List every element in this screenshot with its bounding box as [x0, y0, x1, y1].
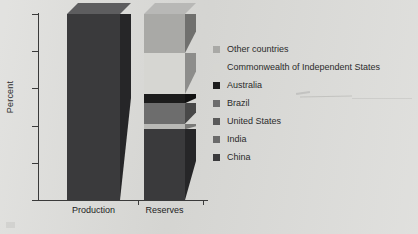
y-axis-tick [32, 14, 38, 15]
bar-side-segment [185, 53, 196, 94]
legend-label: Commonwealth of Independent States [227, 62, 380, 72]
bar-segment-commonwealth-of-independent-states [144, 53, 185, 94]
legend-item: Commonwealth of Independent States [213, 58, 380, 76]
bar-segment-china [144, 129, 185, 200]
plot-area: Percent 020406080100 ProductionReserves [0, 0, 215, 234]
bar-side-segment [185, 129, 196, 200]
bar-side-segment [120, 14, 131, 200]
legend-label: United States [227, 116, 281, 126]
bar-segment-united-states [144, 124, 185, 130]
bar-segment-australia [144, 94, 185, 103]
legend-label: Brazil [227, 98, 250, 108]
bar-front-face [67, 14, 120, 200]
x-axis-category-label: Production [53, 205, 134, 215]
bar-top-face [144, 3, 196, 14]
bar-production [67, 0, 120, 200]
bar-side-face [120, 14, 131, 200]
bar-side-segment [185, 103, 196, 123]
legend-swatch-icon [213, 100, 220, 107]
y-axis-tick [32, 163, 38, 164]
y-axis-title: Percent [5, 67, 15, 127]
bar-reserves [144, 0, 185, 200]
bar-segment-other-countries [144, 14, 185, 53]
y-axis-line [38, 13, 39, 201]
legend-item: Australia [213, 76, 380, 94]
bar-side-segment [185, 94, 196, 103]
legend-label: Australia [227, 80, 262, 90]
legend-item: China [213, 148, 380, 166]
y-axis-tick [32, 200, 38, 201]
legend-label: India [227, 134, 247, 144]
x-axis-tick [203, 200, 204, 205]
legend-item: United States [213, 112, 380, 130]
bar-segment-brazil [144, 103, 185, 123]
bar-front-face [144, 14, 185, 200]
x-axis-line [38, 200, 208, 201]
bar-side-face [185, 14, 196, 200]
legend-label: China [227, 152, 251, 162]
legend-label: Other countries [227, 44, 289, 54]
legend-item: Brazil [213, 94, 380, 112]
bar-segment-china [67, 14, 120, 200]
legend-swatch-icon [213, 46, 220, 53]
legend-swatch-icon [213, 64, 220, 71]
y-axis-tick [32, 51, 38, 52]
x-axis-category-label: Reserves [130, 205, 199, 215]
chart-legend: Other countriesCommonwealth of Independe… [213, 40, 380, 166]
bar-side-segment [185, 14, 196, 53]
legend-swatch-icon [213, 118, 220, 125]
chart-figure: Percent 020406080100 ProductionReserves … [0, 0, 418, 234]
legend-item: Other countries [213, 40, 380, 58]
legend-item: India [213, 130, 380, 148]
legend-swatch-icon [213, 82, 220, 89]
bar-top-face [67, 3, 131, 14]
y-axis-tick [32, 88, 38, 89]
legend-swatch-icon [213, 136, 220, 143]
y-axis-tick [32, 126, 38, 127]
legend-swatch-icon [213, 154, 220, 161]
